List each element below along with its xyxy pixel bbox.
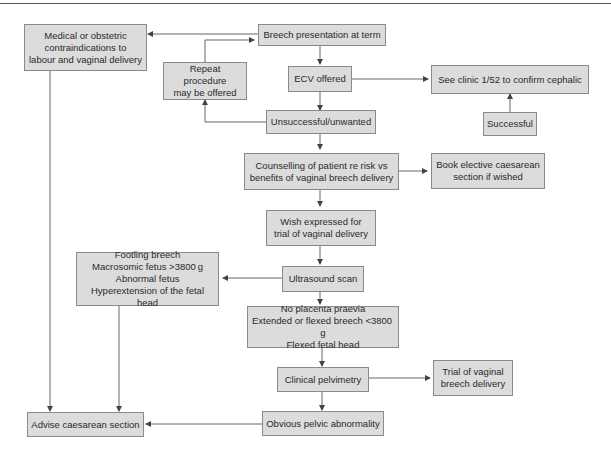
node-repeat-procedure: Repeat procedure may be offered [163, 62, 247, 100]
node-label: See clinic 1/52 to confirm cephalic [438, 74, 582, 86]
node-wish-expressed: Wish expressed for trial of vaginal deli… [266, 210, 376, 246]
node-trial-vaginal: Trial of vaginal breech delivery [433, 360, 513, 396]
node-no-placenta-praevia: No placenta praevia Extended or flexed b… [247, 306, 399, 348]
node-see-clinic: See clinic 1/52 to confirm cephalic [431, 65, 589, 94]
node-label: Counselling of patient re risk vs benefi… [250, 160, 394, 184]
node-unsuccessful: Unsuccessful/unwanted [266, 110, 376, 134]
node-label: ECV offered [294, 73, 346, 85]
node-label: Unsuccessful/unwanted [271, 116, 371, 128]
node-advise-caesarean: Advise caesarean section [27, 412, 144, 437]
node-label: Successful [487, 118, 533, 130]
node-label: Trial of vaginal breech delivery [441, 366, 505, 390]
node-label: Wish expressed for trial of vaginal deli… [274, 216, 368, 240]
node-footling-breech: Footling breech Macrosomic fetus >3800 g… [76, 252, 219, 306]
node-ecv-offered: ECV offered [288, 66, 352, 92]
node-breech-presentation: Breech presentation at term [258, 24, 386, 46]
node-label: Obvious pelvic abnormality [266, 418, 380, 430]
node-ultrasound-scan: Ultrasound scan [282, 266, 364, 292]
node-label: Clinical pelvimetry [285, 374, 362, 386]
node-successful: Successful [483, 112, 537, 136]
node-label: Medical or obstetric contraindications t… [29, 30, 142, 66]
node-label: Breech presentation at term [263, 29, 380, 41]
node-label: No placenta praevia Extended or flexed b… [251, 303, 395, 351]
node-label: Book elective caesarean section if wishe… [436, 159, 540, 183]
node-label: Advise caesarean section [31, 419, 139, 431]
node-counselling: Counselling of patient re risk vs benefi… [244, 153, 399, 190]
node-label: Ultrasound scan [289, 273, 358, 285]
node-label: Footling breech Macrosomic fetus >3800 g… [80, 249, 215, 309]
node-book-caesarean: Book elective caesarean section if wishe… [431, 153, 545, 189]
node-obvious-pelvic: Obvious pelvic abnormality [262, 411, 384, 436]
node-contraindications: Medical or obstetric contraindications t… [24, 24, 147, 71]
node-label: Repeat procedure may be offered [167, 63, 243, 99]
node-clinical-pelvimetry: Clinical pelvimetry [277, 367, 369, 392]
